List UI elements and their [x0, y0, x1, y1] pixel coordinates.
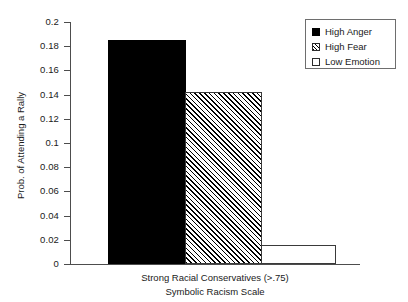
x-axis-title: Symbolic Racism Scale [70, 286, 360, 297]
y-axis-tick-label: 0.02 [40, 235, 59, 245]
x-axis-group-label: Strong Racial Conservatives (>.75) [70, 272, 360, 283]
y-axis-tick-label: 0.16 [40, 65, 59, 75]
y-axis-tick-label: 0.04 [40, 211, 59, 221]
empty-square-icon [312, 58, 320, 66]
y-axis-tick-label: 0.08 [40, 162, 59, 172]
y-axis-tick-label: 0 [54, 259, 59, 269]
legend: High AngerHigh FearLow Emotion [305, 19, 396, 69]
x-axis-line [70, 264, 360, 265]
y-axis-tick-label: 0.18 [40, 41, 59, 51]
y-axis-title: Prob. of Attending a Rally [15, 56, 26, 236]
y-axis-tick-label: 0.06 [40, 186, 59, 196]
bar-low-emotion [261, 245, 336, 264]
legend-item-label: Low Emotion [325, 57, 380, 67]
legend-item: High Fear [312, 40, 395, 54]
y-axis-tick-label: 0.1 [45, 138, 59, 148]
y-axis-tick-label: 0.2 [45, 17, 59, 27]
y-axis-tick-label: 0.12 [40, 114, 59, 124]
solid-square-icon [312, 28, 320, 36]
y-axis-tick-label: 0.14 [40, 90, 59, 100]
legend-item: Low Emotion [312, 55, 395, 69]
legend-item-label: High Anger [325, 27, 372, 37]
bar-high-anger [108, 40, 186, 264]
bar-chart-figure: Prob. of Attending a Rally 0.20.180.160.… [0, 0, 408, 302]
legend-item: High Anger [312, 25, 395, 39]
bar-high-fear [185, 92, 262, 264]
legend-item-label: High Fear [325, 42, 367, 52]
hatched-square-icon [312, 43, 320, 51]
